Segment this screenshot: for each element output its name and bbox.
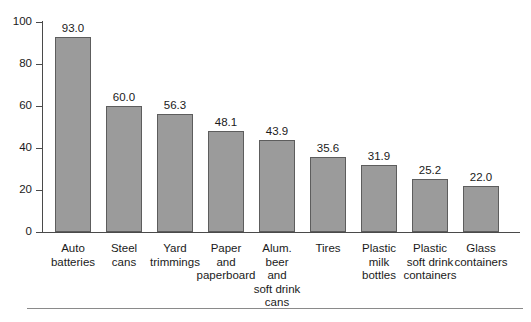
y-axis-tick-label: 80 <box>2 58 32 70</box>
bar-value-label: 43.9 <box>251 125 303 137</box>
y-axis-tick-mark <box>36 232 42 233</box>
bar[interactable] <box>310 157 346 232</box>
bar-group[interactable]: 60.0 <box>106 106 142 232</box>
bar-group[interactable]: 48.1 <box>208 131 244 232</box>
y-axis-tick-label: 60 <box>2 100 32 112</box>
y-axis-tick-mark <box>36 22 42 23</box>
bar-chart-figure: 020406080100 93.060.056.348.143.935.631.… <box>0 0 531 322</box>
y-axis-tick-mark <box>36 64 42 65</box>
x-axis-line <box>42 232 520 233</box>
y-axis-tick: 20 <box>0 190 42 191</box>
y-axis-tick-label: 0 <box>2 226 32 238</box>
bar-value-label: 25.2 <box>404 164 456 176</box>
y-axis-tick: 40 <box>0 148 42 149</box>
bar-group[interactable]: 93.0 <box>55 37 91 232</box>
bar-value-label: 93.0 <box>47 22 99 34</box>
plot-area: 020406080100 93.060.056.348.143.935.631.… <box>0 0 531 322</box>
bar[interactable] <box>157 114 193 232</box>
x-axis-category-label: Glass containers <box>450 242 512 269</box>
y-axis-tick: 60 <box>0 106 42 107</box>
y-axis-tick-mark <box>36 106 42 107</box>
y-axis-tick-mark <box>36 190 42 191</box>
bar-value-label: 60.0 <box>98 91 150 103</box>
bar[interactable] <box>412 179 448 232</box>
y-axis-line <box>42 21 43 233</box>
bar-group[interactable]: 43.9 <box>259 140 295 232</box>
bottom-divider-rule <box>27 308 523 309</box>
y-axis-tick: 100 <box>0 22 42 23</box>
bar[interactable] <box>463 186 499 232</box>
y-axis-tick-label: 20 <box>2 184 32 196</box>
bar-group[interactable]: 56.3 <box>157 114 193 232</box>
bar-value-label: 48.1 <box>200 116 252 128</box>
bar-group[interactable]: 31.9 <box>361 165 397 232</box>
bar-group[interactable]: 25.2 <box>412 179 448 232</box>
y-axis-tick-label: 100 <box>2 16 32 28</box>
bar[interactable] <box>361 165 397 232</box>
y-axis-tick: 80 <box>0 64 42 65</box>
bar[interactable] <box>259 140 295 232</box>
y-axis-tick-label: 40 <box>2 142 32 154</box>
y-axis-tick-mark <box>36 148 42 149</box>
bar-value-label: 56.3 <box>149 99 201 111</box>
bar-group[interactable]: 35.6 <box>310 157 346 232</box>
y-axis-tick: 0 <box>0 232 42 233</box>
bar[interactable] <box>55 37 91 232</box>
bar[interactable] <box>208 131 244 232</box>
bar-value-label: 35.6 <box>302 142 354 154</box>
bar-value-label: 31.9 <box>353 150 405 162</box>
bar[interactable] <box>106 106 142 232</box>
bar-group[interactable]: 22.0 <box>463 186 499 232</box>
bar-value-label: 22.0 <box>455 171 507 183</box>
